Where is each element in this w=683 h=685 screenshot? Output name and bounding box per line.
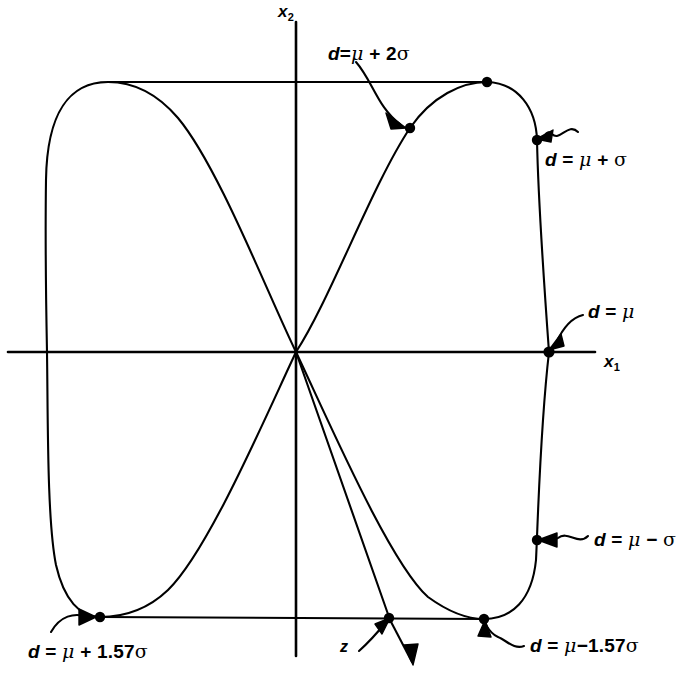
marker-d-mu-plus-2sigma — [405, 123, 415, 133]
leader-arrowhead-d-mu-plus-157sigma — [79, 609, 96, 625]
label-d-mu-minus-157sigma: d = μ−1.57σ — [530, 634, 639, 657]
z-line — [296, 352, 389, 617]
marker-z — [384, 613, 394, 623]
curve-origin-to-lower-left — [100, 352, 296, 617]
label-d-mu-plus-sigma: d = μ + σ — [545, 148, 627, 171]
marker-d-mu — [543, 346, 554, 357]
leader-arrowhead-d-mu-plus-2sigma — [386, 113, 406, 129]
x2-axis-label: x2 — [278, 2, 294, 23]
marker-d-mu-plus-157sigma — [95, 612, 105, 622]
marker-d-mu-plus-sigma — [532, 135, 542, 145]
marker-d-mu-minus-sigma — [532, 535, 542, 545]
z-direction-arrowhead — [404, 644, 418, 665]
curve-origin-to-lower-right — [296, 352, 484, 619]
marker-apex-top — [482, 77, 492, 87]
label-d-mu: d = μ — [588, 300, 635, 323]
label-d-mu-plus-157sigma: d = μ + 1.57σ — [28, 640, 148, 663]
curve-origin-to-upper-left — [108, 82, 296, 352]
leader-d-mu-minus-157sigma — [486, 625, 524, 647]
marker-group — [95, 77, 555, 624]
x1-axis-label: x1 — [604, 352, 620, 373]
label-d-mu-plus-2sigma: d=μ + 2σ — [328, 42, 410, 65]
label-d-mu-minus-sigma: d = μ − σ — [594, 528, 676, 551]
figure-canvas: x2 x1 d=μ + 2σ d = μ + σ d = μ d = μ − σ… — [0, 0, 683, 685]
label-z-vector: z — [340, 638, 348, 656]
marker-d-mu-minus-157sigma — [479, 614, 489, 624]
leader-d-mu-plus-2sigma — [356, 62, 400, 124]
diagram-graphics — [0, 0, 683, 685]
